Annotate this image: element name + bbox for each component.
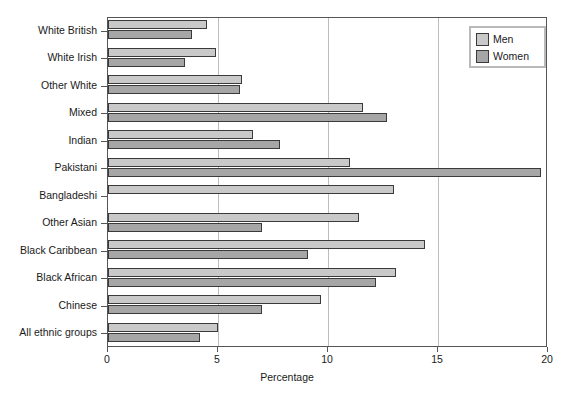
bar-women [108, 30, 192, 39]
bar-men [108, 103, 363, 112]
x-axis-tick-label: 0 [104, 353, 110, 365]
bar-group [108, 238, 546, 266]
bar-men [108, 158, 350, 167]
bar-men [108, 268, 396, 277]
y-axis-tick-label: Pakistani [54, 162, 97, 173]
chart-legend: Men Women [469, 26, 546, 68]
y-axis-tick-label: Bangladeshi [39, 190, 97, 201]
y-axis-tick-label: Indian [68, 135, 97, 146]
bar-women [108, 168, 541, 177]
x-axis-tick-label: 20 [541, 353, 553, 365]
bar-women [108, 140, 280, 149]
bar-group [108, 183, 546, 211]
bar-men [108, 48, 216, 57]
x-axis-title: Percentage [0, 371, 574, 383]
bar-group [108, 73, 546, 101]
bar-women [108, 278, 376, 287]
y-axis-tick-label: White British [38, 25, 97, 36]
bar-group [108, 211, 546, 239]
bar-group [108, 266, 546, 294]
bar-women [108, 58, 185, 67]
women-swatch-icon [476, 50, 489, 63]
y-axis-tick-label: Black African [36, 272, 97, 283]
bar-men [108, 130, 253, 139]
men-swatch-icon [476, 33, 489, 46]
bar-group [108, 128, 546, 156]
bar-men [108, 20, 207, 29]
y-axis-labels: White BritishWhite IrishOther WhiteMixed… [0, 17, 103, 347]
bar-men [108, 75, 242, 84]
x-axis-tick [547, 347, 548, 352]
x-axis-tick-label: 5 [214, 353, 220, 365]
y-axis-tick-label: Black Caribbean [20, 245, 97, 256]
y-axis-tick-label: Chinese [58, 300, 97, 311]
x-axis-tick [327, 347, 328, 352]
legend-label-men: Men [493, 33, 513, 46]
bar-men [108, 185, 394, 194]
x-axis-tick [217, 347, 218, 352]
bar-group [108, 321, 546, 349]
legend-label-women: Women [493, 50, 529, 63]
y-axis-tick-label: All ethnic groups [19, 327, 97, 338]
x-axis-tick [437, 347, 438, 352]
bar-group [108, 101, 546, 129]
bar-women [108, 250, 308, 259]
bar-group [108, 293, 546, 321]
x-axis-tick-label: 15 [431, 353, 443, 365]
y-axis-tick-label: Other Asian [42, 217, 97, 228]
chart-figure: White BritishWhite IrishOther WhiteMixed… [0, 0, 574, 404]
y-axis-tick-label: Other White [41, 80, 97, 91]
x-axis-tick [107, 347, 108, 352]
bar-women [108, 305, 262, 314]
bar-men [108, 240, 425, 249]
bar-men [108, 323, 218, 332]
bar-group [108, 156, 546, 184]
bar-men [108, 213, 359, 222]
bar-women [108, 333, 200, 342]
bar-women [108, 223, 262, 232]
y-axis-tick-label: White Irish [47, 52, 97, 63]
y-axis-tick-label: Mixed [69, 107, 97, 118]
bar-men [108, 295, 321, 304]
bar-women [108, 85, 240, 94]
bar-women [108, 113, 387, 122]
x-axis-tick-label: 10 [321, 353, 333, 365]
